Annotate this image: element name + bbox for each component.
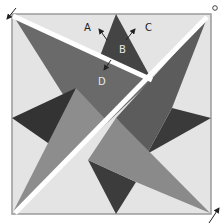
corner-top-right-circle [213,6,218,11]
pinwheel-diagram: A B C D [0,0,223,224]
label-b: B [119,44,126,55]
label-a: A [84,22,91,33]
diagram-canvas: A B C D [0,0,223,224]
label-c: C [145,22,152,33]
label-d: D [98,76,106,87]
